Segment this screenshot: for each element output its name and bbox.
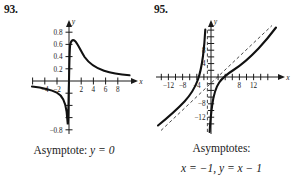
figure-95-ytick--8: −8 [198,100,206,108]
figure-93-left-branch [32,82,69,125]
figure-93-ytick-0.8: 0.8 [54,29,63,37]
figure-93-right-branch [69,40,130,80]
figure-93-caption-equation: y = 0 [90,144,114,156]
figure-95-ytick--12: −12 [194,114,206,122]
figure-95-caption-line2: x = −1, y = x − 1 [148,162,295,174]
figure-95-xtick--12: −12 [163,82,175,90]
figure-93-ytick-0.6: 0.6 [54,41,63,49]
figure-93-x-axis-label: x [138,77,143,86]
figure-95-xtick--8: −8 [179,82,187,90]
figure-93-caption-label: Asymptote: [34,144,88,156]
figure-93-svg: −4 −2 2 4 6 8 0.2 0.4 0.6 0.8 −0.8 x y [0,14,148,136]
figure-95-xtick-8: 8 [238,82,242,90]
figure-95-y-axis-label: y [213,17,218,26]
figure-95-x-axis-label: x [285,73,290,82]
figure-95-plot: −12 −8 −4 8 12 4 8 −8 −12 x y [148,14,295,136]
figure-93-x-axis [33,78,138,84]
figure-93-y-axis-label: y [71,17,76,26]
figure-93-plot: −4 −2 2 4 6 8 0.2 0.4 0.6 0.8 −0.8 x y [0,14,148,136]
figure-93-xtick-8: 8 [116,86,120,94]
figure-93-ytick-0.4: 0.4 [54,53,63,61]
figure-93-ytick--0.8: −0.8 [49,127,62,135]
figure-95-xtick-12: 12 [250,82,258,90]
figure-95-caption-line1: Asymptotes: [148,142,295,154]
figure-95-svg: −12 −8 −4 8 12 4 8 −8 −12 x y [148,14,295,136]
figure-93-panel: 93. [0,0,148,184]
figure-93-ytick-0.2: 0.2 [54,66,63,74]
figure-95-right-branch [210,28,276,133]
figure-95-panel: 95. [148,0,295,184]
figure-93-xtick-6: 6 [104,86,108,94]
figure-93-xtick-2: 2 [79,86,83,94]
figure-95-slant-asymptote [161,26,272,131]
figure-93-xtick-4: 4 [92,86,96,94]
figure-93-caption: Asymptote: y = 0 [0,144,148,156]
